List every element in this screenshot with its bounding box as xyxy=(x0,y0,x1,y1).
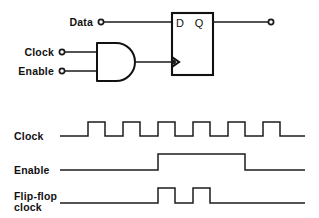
enable-waveform xyxy=(60,154,305,170)
and-gate[interactable] xyxy=(97,43,135,81)
enable-input-terminal[interactable] xyxy=(59,68,64,73)
enable-input-label: Enable xyxy=(18,65,54,77)
clock-input-terminal[interactable] xyxy=(59,49,64,54)
q-output-terminal[interactable] xyxy=(268,19,273,24)
timing-diagram: Clock Enable Flip-flop clock xyxy=(14,122,305,213)
timing-label-flipflop-clock-line2: clock xyxy=(14,201,42,213)
data-input-label: Data xyxy=(69,16,93,28)
clock-waveform xyxy=(60,122,305,136)
figure-container: D Q Data Clock Enable Clock Enable Flip-… xyxy=(0,0,319,218)
circuit-schematic: D Q Data Clock Enable xyxy=(18,13,273,81)
flip-flop-q-pin-label: Q xyxy=(195,17,204,29)
timing-label-clock: Clock xyxy=(14,130,44,142)
flip-flop-d-pin-label: D xyxy=(176,17,184,29)
timing-label-enable: Enable xyxy=(14,164,50,176)
clock-input-dot-icon xyxy=(172,60,176,64)
flipflop-clock-waveform xyxy=(60,188,305,203)
clock-input-label: Clock xyxy=(24,46,54,58)
schematic-and-timing-svg: D Q Data Clock Enable Clock Enable Flip-… xyxy=(0,0,319,218)
data-input-terminal[interactable] xyxy=(98,19,103,24)
